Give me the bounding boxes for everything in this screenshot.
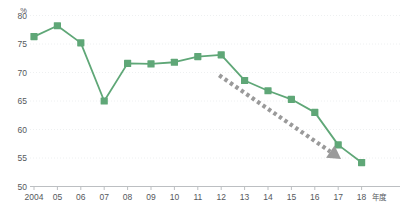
y-axis-tick-label: 60 xyxy=(18,125,28,135)
series-data-point xyxy=(311,109,318,116)
series-markers xyxy=(30,22,365,166)
series-data-point xyxy=(147,60,154,67)
y-axis-tick-labels: 50556065707580 xyxy=(18,11,28,192)
x-axis-tick-label: 12 xyxy=(216,192,226,202)
series-data-point xyxy=(30,33,37,40)
y-axis-tick-label: 55 xyxy=(18,153,28,163)
series-data-point xyxy=(171,59,178,66)
y-axis-unit-label: % xyxy=(20,6,27,15)
line-chart-figure: 50556065707580 % 20040506070809101112131… xyxy=(0,0,418,220)
x-axis-tick-label: 16 xyxy=(310,192,320,202)
y-axis-tick-label: 50 xyxy=(18,182,28,192)
chart-canvas: 50556065707580 % 20040506070809101112131… xyxy=(0,0,418,220)
x-axis-tick-label: 15 xyxy=(287,192,297,202)
y-axis-tick-label: 65 xyxy=(18,96,28,106)
series-data-point xyxy=(77,39,84,46)
x-axis-caption-label: 年度 xyxy=(372,192,387,202)
series-data-point xyxy=(264,87,271,94)
x-axis-tick-label: 07 xyxy=(99,192,109,202)
y-axis-tick-label: 70 xyxy=(18,68,28,78)
x-axis-tick-label: 05 xyxy=(53,192,63,202)
x-axis-tick-label: 18 xyxy=(357,192,367,202)
downtrend-arrow-annotation xyxy=(219,75,341,159)
x-axis-tick-label: 14 xyxy=(263,192,273,202)
x-axis-tick-label: 08 xyxy=(123,192,133,202)
x-axis-tick-label: 09 xyxy=(146,192,156,202)
x-axis-tick-labels: 20040506070809101112131415161718 xyxy=(25,192,367,202)
series-data-point xyxy=(54,22,61,29)
x-axis-tick-label: 2004 xyxy=(25,192,44,202)
x-axis-tick-label: 11 xyxy=(193,192,202,202)
gridlines xyxy=(30,16,400,187)
series-data-point xyxy=(358,159,365,166)
x-axis-tick-label: 17 xyxy=(333,192,343,202)
x-axis-tick-label: 13 xyxy=(240,192,250,202)
series-data-point xyxy=(288,96,295,103)
x-axis-ticks xyxy=(34,187,362,191)
x-axis-tick-label: 10 xyxy=(170,192,180,202)
series-data-point xyxy=(124,60,131,67)
series-data-point xyxy=(335,141,342,148)
series-data-point xyxy=(218,51,225,58)
series-data-point xyxy=(241,77,248,84)
y-axis-tick-label: 75 xyxy=(18,39,28,49)
series-data-point xyxy=(101,97,108,104)
series-data-point xyxy=(194,53,201,60)
x-axis-tick-label: 06 xyxy=(76,192,86,202)
